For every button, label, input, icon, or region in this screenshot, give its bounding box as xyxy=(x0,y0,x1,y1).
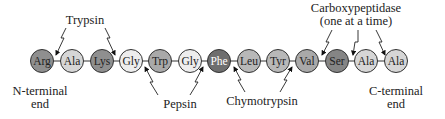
residue-gly: Gly xyxy=(120,50,143,73)
residue-tyr: Tyr xyxy=(267,50,290,73)
residue-label: Ala xyxy=(388,55,405,67)
peptide-diagram: ArgAlaLysGlyTrpGlyPheLeuTyrValSerAlaAla … xyxy=(0,0,445,119)
residue-label: Ala xyxy=(64,55,81,67)
residue-label: Ala xyxy=(358,55,375,67)
residue-leu: Leu xyxy=(238,50,261,73)
pepsin-label: Pepsin xyxy=(163,97,197,111)
residue-ala: Ala xyxy=(385,50,408,73)
trypsin-label: Trypsin xyxy=(66,13,105,27)
residue-label: Phe xyxy=(210,55,227,67)
residue-val: Val xyxy=(296,50,319,73)
residue-label: Arg xyxy=(33,55,51,68)
residue-trp: Trp xyxy=(149,50,172,73)
carboxypeptidase-label: Carboxypeptidase xyxy=(311,1,402,15)
residue-ala: Ala xyxy=(355,50,378,73)
residue-label: Tyr xyxy=(270,55,286,68)
n-terminal-label: N-terminal xyxy=(13,84,68,98)
residue-gly: Gly xyxy=(179,50,202,73)
residue-arg: Arg xyxy=(31,50,54,73)
residue-label: Ser xyxy=(329,55,345,67)
residue-ser: Ser xyxy=(326,50,349,73)
residue-label: Val xyxy=(299,55,314,67)
residue-ala: Ala xyxy=(61,50,84,73)
c-terminal-label: C-terminal xyxy=(369,84,424,98)
residue-label: Gly xyxy=(122,55,140,68)
residue-label: Lys xyxy=(94,55,111,68)
residue-label: Gly xyxy=(181,55,199,68)
residue-lys: Lys xyxy=(91,50,114,73)
residue-label: Trp xyxy=(152,55,168,68)
residue-phe: Phe xyxy=(208,50,231,73)
carboxypeptidase-sublabel: (one at a time) xyxy=(320,14,393,28)
residue-label: Leu xyxy=(240,55,258,67)
c-terminal-end-label: end xyxy=(387,97,406,111)
n-terminal-end-label: end xyxy=(31,97,50,111)
chymotrypsin-label: Chymotrypsin xyxy=(226,94,298,108)
